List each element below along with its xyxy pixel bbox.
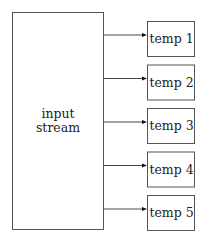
edge-arrow	[104, 33, 148, 37]
target-node: temp 2	[148, 65, 195, 100]
edge-arrow	[104, 207, 148, 211]
stream-diagram: input stream temp 1temp 2temp 3temp 4tem…	[0, 0, 204, 242]
temp-label: temp 2	[149, 75, 193, 90]
target-node: temp 5	[148, 196, 195, 231]
edge-arrow	[104, 164, 148, 168]
arrow-head-icon	[142, 207, 147, 211]
target-node: temp 3	[148, 109, 195, 144]
target-node: temp 4	[148, 152, 195, 187]
edges	[104, 33, 148, 211]
temp-label: temp 5	[149, 205, 193, 220]
edge-arrow	[104, 120, 148, 124]
edge-arrow	[104, 77, 148, 81]
source-node: input stream	[13, 13, 104, 230]
temp-label: temp 4	[149, 162, 193, 177]
arrow-head-icon	[142, 120, 147, 124]
source-label-line-2: stream	[36, 120, 80, 135]
arrow-head-icon	[142, 164, 147, 168]
target-nodes: temp 1temp 2temp 3temp 4temp 5	[148, 22, 195, 231]
arrow-head-icon	[142, 33, 147, 37]
target-node: temp 1	[148, 22, 195, 57]
temp-label: temp 1	[149, 31, 193, 46]
source-label-line-1: input	[41, 106, 74, 121]
arrow-head-icon	[142, 77, 147, 81]
temp-label: temp 3	[149, 118, 193, 133]
